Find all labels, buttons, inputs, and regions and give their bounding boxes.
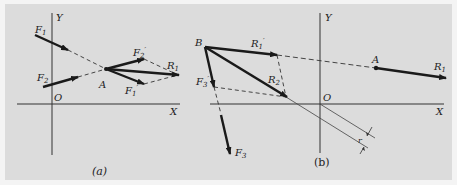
y-axis-label: Y <box>56 12 64 23</box>
f3-label: F3 <box>234 147 247 160</box>
caption-a: (a) <box>92 165 107 178</box>
point-a-label: A <box>371 54 379 65</box>
panel-b: Y O X r B R1′ R2 F3′ F3 A R <box>194 12 446 169</box>
parallelogram-edge-bottom <box>144 75 178 84</box>
r1-line-of-action <box>277 55 376 68</box>
point-a-label: A <box>98 79 106 90</box>
f1-line-of-action <box>68 50 106 69</box>
r1-prime-label: R1′ <box>250 37 265 51</box>
f3-vector <box>221 115 230 154</box>
distance-r-label: r <box>358 136 363 145</box>
origin-label: O <box>54 92 62 103</box>
r2-line-of-action <box>286 97 368 148</box>
r1-label: R1 <box>166 60 179 73</box>
r1-label: R1 <box>433 61 446 74</box>
f3-prime-label: F3′ <box>195 75 209 89</box>
force-diagram: Y O X F1 F2 A F2′ F1′ R1 (a) Y O X <box>0 0 457 185</box>
f2-line-of-action <box>78 69 106 77</box>
point-b-label: B <box>194 37 202 48</box>
f2-label: F2 <box>36 72 49 85</box>
f2-prime-vector <box>106 59 144 69</box>
panel-a: Y O X F1 F2 A F2′ F1′ R1 (a) <box>17 12 180 178</box>
y-axis-label: Y <box>325 12 333 23</box>
f1-prime-label: F1′ <box>124 84 138 98</box>
x-axis-label: X <box>169 106 178 117</box>
f3-line-of-action <box>214 87 221 114</box>
x-axis-label: X <box>435 106 444 117</box>
f2-prime-label: F2′ <box>132 46 146 60</box>
origin-label: O <box>323 92 331 103</box>
caption-b: (b) <box>314 156 330 169</box>
